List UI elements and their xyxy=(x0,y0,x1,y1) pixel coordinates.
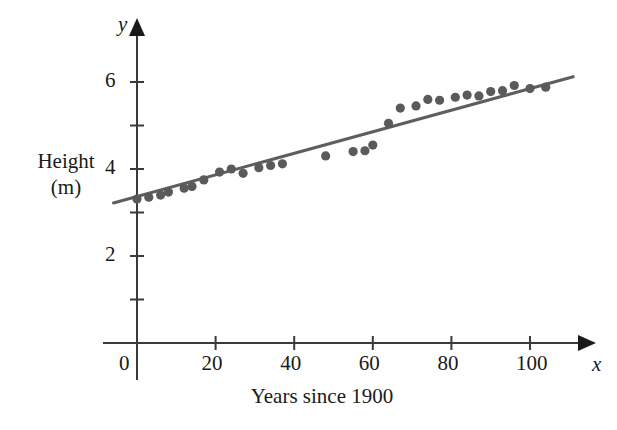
chart-figure: Height (m) y x Years since 1900 02040608… xyxy=(0,0,617,430)
y-axis-title-line1: Height xyxy=(18,148,114,174)
x-tick-label: 80 xyxy=(437,351,458,376)
data-point xyxy=(368,140,377,149)
data-point xyxy=(510,81,519,90)
y-tick-label: 4 xyxy=(105,155,116,180)
data-point xyxy=(239,169,248,178)
data-point xyxy=(396,104,405,113)
data-point xyxy=(278,159,287,168)
data-point xyxy=(266,161,275,170)
data-point xyxy=(199,175,208,184)
x-axis-arrow-icon xyxy=(578,335,596,351)
data-point xyxy=(144,193,153,202)
x-tick-label: 100 xyxy=(516,351,548,376)
y-axis-symbol: y xyxy=(118,12,127,37)
data-point xyxy=(132,194,141,203)
data-point xyxy=(187,182,196,191)
x-tick-label: 60 xyxy=(359,351,380,376)
axes-group xyxy=(103,18,596,380)
data-point xyxy=(498,86,507,95)
data-point xyxy=(463,90,472,99)
x-tick-label: 0 xyxy=(119,351,130,376)
x-tick-label: 40 xyxy=(280,351,301,376)
x-axis-title: Years since 1900 xyxy=(212,384,432,409)
data-point xyxy=(254,163,263,172)
y-tick-label: 6 xyxy=(105,68,116,93)
y-tick-label: 2 xyxy=(105,242,116,267)
data-point xyxy=(156,191,165,200)
data-point xyxy=(474,91,483,100)
data-point xyxy=(423,95,432,104)
data-point xyxy=(180,184,189,193)
y-axis-title-line2: (m) xyxy=(18,174,114,200)
x-tick-label: 20 xyxy=(202,351,223,376)
y-axis-title: Height (m) xyxy=(18,148,114,201)
data-point xyxy=(360,146,369,155)
data-point xyxy=(541,83,550,92)
data-point xyxy=(384,119,393,128)
data-point xyxy=(164,187,173,196)
y-axis-arrow-icon xyxy=(129,18,145,36)
data-point xyxy=(227,164,236,173)
data-point xyxy=(215,167,224,176)
data-point xyxy=(349,147,358,156)
data-point xyxy=(451,93,460,102)
data-point xyxy=(525,84,534,93)
x-axis-symbol: x xyxy=(592,352,601,377)
data-point xyxy=(411,101,420,110)
data-point xyxy=(321,151,330,160)
data-point xyxy=(435,96,444,105)
data-point xyxy=(486,87,495,96)
